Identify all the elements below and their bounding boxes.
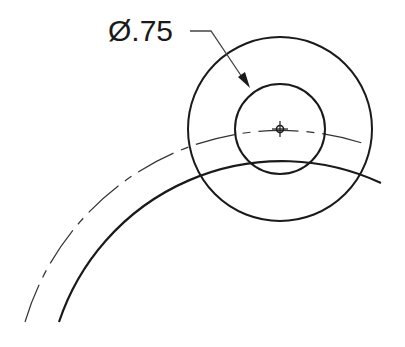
drawing-canvas xyxy=(0,0,405,347)
center-mark-icon xyxy=(272,121,288,137)
outer-solid-arc xyxy=(59,161,381,322)
leader-line xyxy=(190,31,244,80)
diameter-dimension-label: Ø.75 xyxy=(108,14,173,48)
centerline-dashed-arc xyxy=(25,130,368,322)
